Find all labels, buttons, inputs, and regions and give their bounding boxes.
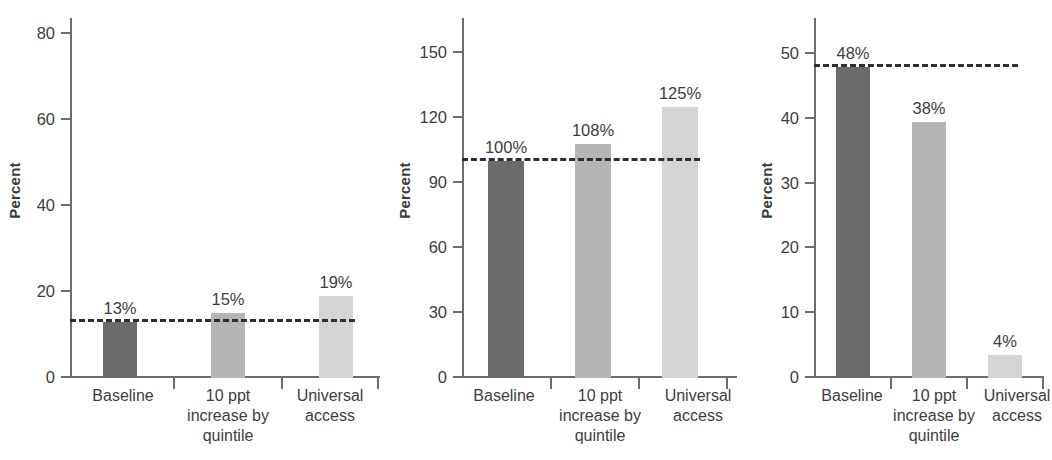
y-tick-label-3-4: 40 [781,108,799,127]
y-axis-line-3 [814,18,816,378]
x-category-line-2-1-3: quintile [546,426,654,446]
bar-3-universal: 4% [988,355,1022,378]
y-tick-label-3-1: 10 [781,303,799,322]
y-axis-title-3: Percent [752,0,780,380]
y-tick-3-5: 50 [805,52,814,54]
x-category-line-1-1-2: increase by [174,406,282,426]
bar-value-1-0: 13% [103,299,136,318]
chart-panel-2: Percent 0 30 60 90 120 150 [390,0,750,460]
y-tick-label-1-4: 80 [37,24,55,43]
x-category-line-1-0-1: Baseline [70,386,176,406]
y-tick-1-0: 0 [61,376,70,378]
bar-value-2-2: 125% [659,84,701,103]
x-category-line-2-1-2: increase by [546,406,654,426]
bar-value-2-1: 108% [572,121,614,140]
y-tick-2-0: 0 [453,376,462,378]
bar-1-baseline: 13% [103,322,137,378]
baseline-reference-line-1 [70,319,355,322]
bar-1-universal: 19% [319,296,353,378]
plot-area-2: 0 30 60 90 120 150 100% [462,18,737,378]
x-category-2-10ppt: 10 ppt increase by quintile [546,386,654,446]
y-tick-3-2: 20 [805,246,814,248]
y-axis-line-2 [462,18,464,378]
x-category-line-2-0-1: Baseline [454,386,554,406]
x-category-1-universal: Universal access [280,386,380,426]
x-category-2-baseline: Baseline [454,386,554,406]
x-category-3-universal: Universal access [974,386,1052,426]
x-category-line-1-2-2: access [280,406,380,426]
x-category-1-baseline: Baseline [70,386,176,406]
plot-area-1: 0 20 40 60 80 13% 15% [70,18,380,378]
y-tick-label-2-1: 30 [429,303,447,322]
y-tick-label-3-0: 0 [790,368,799,387]
x-category-2-universal: Universal access [650,386,746,426]
y-tick-3-3: 30 [805,182,814,184]
y-tick-label-3-2: 20 [781,238,799,257]
y-tick-label-1-2: 40 [37,196,55,215]
bar-3-baseline: 48% [836,67,870,378]
y-tick-1-3: 60 [61,118,70,120]
bar-value-3-1: 38% [912,99,945,118]
x-category-line-1-1-3: quintile [174,426,282,446]
bar-2-universal: 125% [662,107,698,378]
x-category-line-2-2-2: access [650,406,746,426]
y-axis-line-1 [70,18,72,378]
y-axis-title-2: Percent [390,0,418,380]
y-tick-label-1-3: 60 [37,110,55,129]
bar-3-10ppt: 38% [912,122,946,378]
y-tick-3-0: 0 [805,376,814,378]
x-category-3-baseline: Baseline [810,386,894,406]
x-category-line-2-2-1: Universal [650,386,746,406]
bar-2-10ppt: 108% [575,144,611,378]
bar-value-1-2: 19% [319,273,352,292]
plot-area-3: 0 10 20 30 40 50 48% [814,18,1044,378]
bar-value-3-0: 48% [836,44,869,63]
y-tick-label-1-0: 0 [46,368,55,387]
y-tick-label-1-1: 20 [37,282,55,301]
y-tick-label-2-3: 90 [429,173,447,192]
y-tick-label-2-2: 60 [429,238,447,257]
chart-panel-1: Percent 0 20 40 60 80 [0,0,400,460]
y-tick-label-3-3: 30 [781,173,799,192]
bar-2-baseline: 100% [488,161,524,378]
baseline-reference-line-2 [462,158,700,161]
y-tick-2-3: 90 [453,181,462,183]
x-category-line-3-2-1: Universal [974,386,1052,406]
y-tick-2-5: 150 [453,51,462,53]
y-tick-label-3-5: 50 [781,44,799,63]
y-tick-2-4: 120 [453,116,462,118]
bar-1-10ppt: 15% [211,313,245,378]
x-category-line-1-1-1: 10 ppt [174,386,282,406]
x-category-line-3-1-1: 10 ppt [884,386,984,406]
y-tick-3-1: 10 [805,311,814,313]
baseline-reference-line-3 [814,64,1018,67]
x-category-line-2-1-1: 10 ppt [546,386,654,406]
y-tick-3-4: 40 [805,117,814,119]
y-tick-2-1: 30 [453,311,462,313]
y-axis-title-1: Percent [0,0,28,380]
y-tick-label-2-5: 150 [419,43,447,62]
x-category-line-3-1-2: increase by [884,406,984,426]
x-category-line-1-2-1: Universal [280,386,380,406]
y-tick-1-1: 20 [61,290,70,292]
chart-panel-3: Percent 0 10 20 30 40 50 [752,0,1052,460]
x-category-1-10ppt: 10 ppt increase by quintile [174,386,282,446]
y-tick-label-2-0: 0 [438,368,447,387]
bar-value-2-0: 100% [485,138,527,157]
y-tick-label-2-4: 120 [419,108,447,127]
y-tick-1-2: 40 [61,204,70,206]
three-panel-bar-chart-figure: Percent 0 20 40 60 80 [0,0,1052,460]
y-tick-1-4: 80 [61,32,70,34]
x-category-line-3-2-2: access [974,406,1052,426]
x-category-line-3-1-3: quintile [884,426,984,446]
x-category-line-3-0-1: Baseline [810,386,894,406]
bar-value-3-2: 4% [993,332,1017,351]
y-tick-2-2: 60 [453,246,462,248]
bar-value-1-1: 15% [211,290,244,309]
x-category-3-10ppt: 10 ppt increase by quintile [884,386,984,446]
